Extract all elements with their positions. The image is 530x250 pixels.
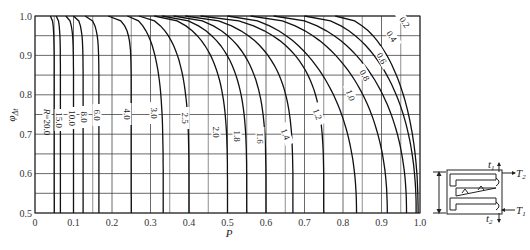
svg-text:15.0: 15.0 [54, 112, 64, 128]
curve-label: 2.5 [180, 107, 190, 129]
x-tick: 0 [33, 217, 38, 228]
svg-text:φΔt: φΔt [5, 108, 20, 122]
svg-text:1.8: 1.8 [232, 130, 242, 142]
y-axis-ticks: 0.50.60.70.80.91.0 [20, 11, 33, 219]
y-tick: 0.5 [20, 208, 33, 219]
x-tick: 0.3 [144, 217, 157, 228]
x-tick: 0.2 [106, 217, 119, 228]
curve-labels: R=20.015.010.08.06.04.03.02.52.01.81.61.… [42, 10, 415, 149]
curve-label: 8.0 [79, 106, 89, 128]
label-t1: t1 [488, 158, 495, 172]
curve-label: 10.0 [67, 107, 77, 129]
exchanger-diagram [433, 162, 516, 223]
x-tick: 0.8 [337, 217, 350, 228]
curve-label: R=20.0 [42, 108, 52, 136]
y-tick: 0.7 [20, 129, 33, 140]
x-tick: 0.1 [67, 217, 80, 228]
svg-text:3.0: 3.0 [149, 107, 159, 119]
y-axis-label: φΔt [5, 108, 20, 122]
svg-text:10.0: 10.0 [67, 110, 77, 126]
x-tick: 1.0 [414, 217, 427, 228]
correction-factor-chart: R=20.015.010.08.06.04.03.02.52.01.81.61.… [0, 0, 530, 250]
curve-label: 6.0 [92, 104, 102, 126]
x-tick: 0.7 [298, 217, 311, 228]
svg-text:2.0: 2.0 [211, 126, 221, 138]
label-T1: T1 [516, 204, 526, 218]
y-tick: 0.6 [20, 168, 33, 179]
svg-text:8.0: 8.0 [79, 111, 89, 123]
svg-text:4.0: 4.0 [122, 108, 132, 120]
curve-label: 4.0 [122, 103, 132, 125]
curve-label: 0.2 [394, 10, 415, 34]
y-tick: 1.0 [20, 11, 33, 22]
curve-label: 15.0 [54, 109, 64, 131]
curve-label: 1.8 [232, 125, 242, 147]
x-tick: 0.6 [260, 217, 273, 228]
y-tick: 0.8 [20, 89, 33, 100]
y-tick: 0.9 [20, 50, 33, 61]
x-tick: 0.4 [183, 217, 196, 228]
svg-text:2.5: 2.5 [180, 112, 190, 124]
x-tick: 0.9 [375, 217, 388, 228]
svg-text:6.0: 6.0 [92, 109, 102, 121]
x-axis-label: P [225, 227, 233, 239]
curve-label: 0.4 [381, 24, 402, 48]
curve-label: 2.0 [211, 121, 221, 143]
svg-text:R=20.0: R=20.0 [42, 108, 52, 136]
curve-label: 3.0 [149, 102, 159, 124]
label-T2: T2 [516, 167, 526, 181]
curve-label: 1.6 [255, 127, 265, 149]
curve-label: 0.6 [372, 46, 391, 70]
svg-text:1.6: 1.6 [255, 132, 265, 144]
